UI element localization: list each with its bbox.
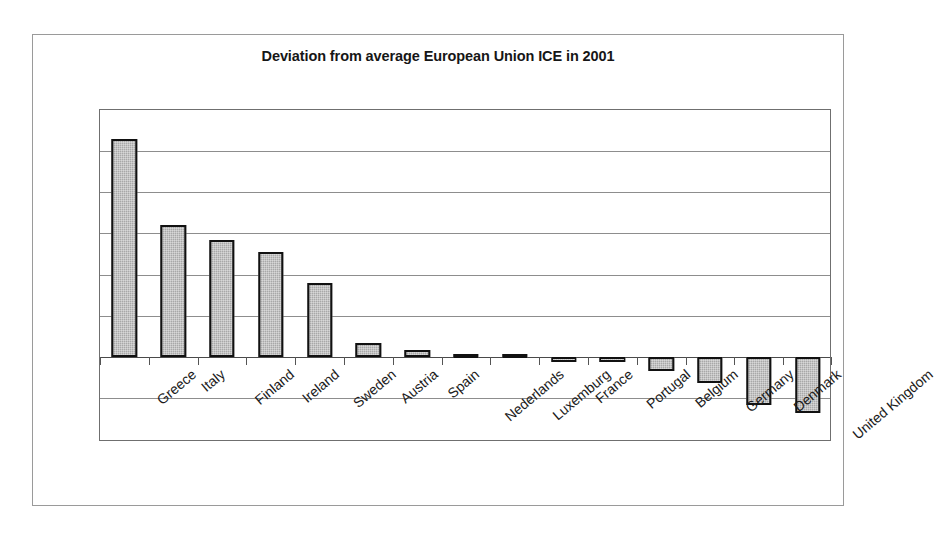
bar-sweden[interactable] bbox=[307, 283, 332, 357]
bar-austria[interactable] bbox=[356, 343, 381, 357]
axis-tick bbox=[734, 357, 735, 365]
axis-tick bbox=[295, 357, 296, 365]
bar-spain[interactable] bbox=[405, 350, 430, 357]
bar-france[interactable] bbox=[551, 357, 576, 362]
axis-tick bbox=[686, 357, 687, 365]
bar-slot bbox=[100, 110, 149, 440]
bar-nederlands[interactable] bbox=[453, 354, 478, 358]
axis-tick bbox=[442, 357, 443, 365]
bar-belgium[interactable] bbox=[649, 357, 674, 371]
bar-portugal[interactable] bbox=[600, 357, 625, 362]
axis-tick bbox=[637, 357, 638, 365]
axis-tick bbox=[831, 357, 832, 365]
bar-greece[interactable] bbox=[112, 139, 137, 357]
bar-italy[interactable] bbox=[161, 225, 186, 357]
category-label-united-kingdom: United Kingdom bbox=[849, 366, 936, 442]
axis-tick bbox=[490, 357, 491, 365]
chart-title: Deviation from average European Union IC… bbox=[33, 48, 843, 64]
bar-ireland[interactable] bbox=[258, 252, 283, 357]
axis-tick bbox=[149, 357, 150, 365]
axis-tick bbox=[198, 357, 199, 365]
axis-tick bbox=[393, 357, 394, 365]
axis-tick bbox=[344, 357, 345, 365]
axis-tick bbox=[539, 357, 540, 365]
bar-finland[interactable] bbox=[209, 240, 234, 357]
axis-tick bbox=[783, 357, 784, 365]
axis-tick bbox=[246, 357, 247, 365]
bar-luxemburg[interactable] bbox=[502, 354, 527, 358]
figure-frame: Deviation from average European Union IC… bbox=[32, 34, 844, 506]
axis-tick bbox=[588, 357, 589, 365]
axis-tick bbox=[100, 357, 101, 365]
